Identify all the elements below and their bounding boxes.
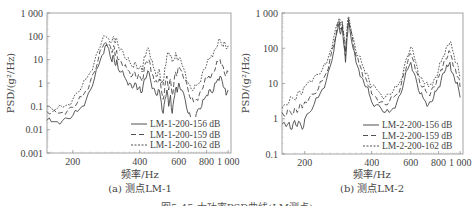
y-tick-label: 0.1 bbox=[31, 101, 44, 112]
x-tick-label: 200 bbox=[297, 157, 312, 168]
y-axis-ticks: 1 0001001010.1 bbox=[256, 8, 286, 160]
y-tick-label: 1 000 bbox=[256, 8, 279, 19]
y-tick-label: 10 bbox=[268, 78, 278, 89]
legend-label: LM-2-200-159 dB bbox=[382, 131, 452, 141]
y-axis-title: PSD/(g²/Hz) bbox=[5, 53, 16, 114]
legend-label: LM-2-200-156 dB bbox=[382, 120, 452, 130]
x-tick-label: 600 bbox=[171, 156, 186, 167]
legend-label: LM-2-200-162 dB bbox=[382, 141, 452, 151]
chart-lm-2: 1 0001001010.1 2004006008001 000 PSD/(g²… bbox=[240, 8, 471, 195]
series-line-dotted bbox=[47, 36, 228, 111]
x-tick-label: 600 bbox=[403, 157, 418, 168]
subcaption-b: (b) 测点LM-2 bbox=[340, 182, 404, 194]
legend-label: LM-1-200-159 dB bbox=[150, 130, 220, 140]
figure-caption: 图5-45 大功率PSD曲线(LM测点) bbox=[161, 201, 313, 206]
subcaption-a: (a) 测点LM-1 bbox=[108, 182, 172, 194]
x-tick-label: 800 bbox=[431, 157, 446, 168]
curves bbox=[282, 16, 460, 129]
series-line-dashed bbox=[282, 19, 460, 117]
legend: LM-2-200-156 dBLM-2-200-159 dBLM-2-200-1… bbox=[361, 118, 461, 151]
y-tick-label: 1 000 bbox=[21, 8, 44, 19]
x-tick-label: 800 bbox=[199, 156, 214, 167]
x-tick-label: 400 bbox=[132, 156, 147, 167]
y-tick-label: 0.1 bbox=[266, 149, 279, 160]
series-line-solid bbox=[47, 46, 228, 125]
y-axis-title: PSD/(g²/Hz) bbox=[240, 53, 251, 114]
y-tick-label: 1 bbox=[273, 113, 278, 124]
y-axis-ticks: 1 0001001010.10.010.001 bbox=[21, 8, 51, 159]
y-tick-label: 100 bbox=[263, 43, 278, 54]
legend-label: LM-1-200-156 dB bbox=[150, 119, 220, 129]
x-axis-title: 频率/Hz bbox=[353, 168, 390, 180]
series-line-dotted bbox=[282, 16, 460, 108]
legend: LM-1-200-156 dBLM-1-200-159 dBLM-1-200-1… bbox=[129, 117, 229, 150]
y-tick-label: 100 bbox=[28, 31, 43, 42]
x-tick-label: 200 bbox=[65, 156, 80, 167]
legend-label: LM-1-200-162 dB bbox=[150, 140, 220, 150]
y-tick-label: 0.001 bbox=[21, 148, 44, 159]
x-tick-label: 1 000 bbox=[217, 156, 240, 167]
chart-lm-1: 1 0001001010.10.010.001 2004006008001 00… bbox=[5, 8, 239, 195]
x-tick-label: 400 bbox=[364, 157, 379, 168]
series-line-solid bbox=[282, 21, 460, 130]
y-tick-label: 0.01 bbox=[26, 124, 44, 135]
figure-canvas: 1 0001001010.10.010.001 2004006008001 00… bbox=[0, 0, 475, 206]
y-tick-label: 10 bbox=[33, 54, 43, 65]
x-axis-title: 频率/Hz bbox=[121, 168, 158, 180]
y-tick-label: 1 bbox=[38, 78, 43, 89]
x-tick-label: 1 000 bbox=[449, 157, 472, 168]
curves bbox=[47, 36, 228, 125]
